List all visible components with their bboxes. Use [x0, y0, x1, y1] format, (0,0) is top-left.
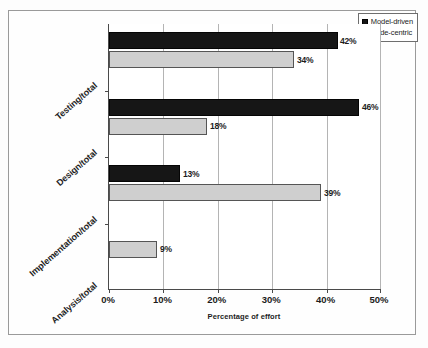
bar-testing-code-centric[interactable]: [109, 51, 294, 68]
bar-implementation-code-centric[interactable]: [109, 184, 321, 201]
scan-artifact: [2, 1, 16, 9]
chart-figure: Model-driven Code-centric 42%: [0, 0, 428, 348]
category-band-implementation: 13% 39%: [109, 157, 380, 224]
xtick-label-10: 10%: [153, 294, 172, 305]
xtick-label-30: 30%: [262, 294, 281, 305]
bar-analysis-code-centric[interactable]: [109, 241, 157, 258]
gridline-50: [380, 24, 381, 289]
bar-value-design-code-centric: 18%: [210, 121, 226, 131]
xtick-50: [380, 289, 381, 293]
category-band-analysis: 9%: [109, 224, 380, 291]
bar-value-implementation-code-centric: 39%: [324, 188, 340, 198]
bar-design-code-centric[interactable]: [109, 118, 207, 135]
bar-value-implementation-model-driven: 13%: [183, 169, 199, 179]
xtick-label-20: 20%: [207, 294, 226, 305]
category-band-design: 46% 18%: [109, 91, 380, 158]
xtick-label-50: 50%: [369, 294, 388, 305]
xtick-label-0: 0%: [101, 294, 115, 305]
xtick-label-40: 40%: [316, 294, 335, 305]
bar-value-testing-model-driven: 42%: [340, 36, 356, 46]
category-band-testing: 42% 34%: [109, 24, 380, 91]
bar-design-model-driven[interactable]: [109, 99, 359, 116]
bar-implementation-model-driven[interactable]: [109, 165, 180, 182]
bar-value-design-model-driven: 46%: [362, 102, 378, 112]
bar-testing-model-driven[interactable]: [109, 32, 338, 49]
bar-value-testing-code-centric: 34%: [297, 55, 313, 65]
xaxis-title: Percentage of effort: [108, 312, 380, 321]
bar-value-analysis-code-centric: 9%: [160, 244, 172, 254]
plot-area: 42% 34% 46% 18% 13%: [108, 24, 380, 290]
